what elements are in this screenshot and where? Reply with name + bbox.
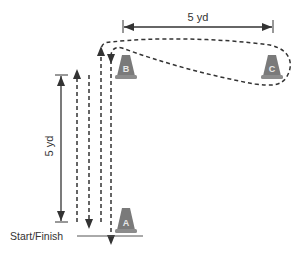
drill-diagram: 5 yd 5 yd Start/Finish B [0, 0, 301, 256]
arrow-down-icon [107, 54, 115, 64]
arrow-up-icon [97, 46, 105, 56]
vertical-dimension: 5 yd [43, 75, 68, 222]
arrow-right-icon [262, 23, 272, 31]
cone-a-label: A [123, 218, 130, 228]
horizontal-dimension: 5 yd [123, 11, 273, 33]
arrow-left-icon [124, 23, 134, 31]
running-path [77, 39, 290, 238]
arrow-down-icon [85, 219, 93, 229]
cone-b-icon: B [115, 55, 137, 79]
start-finish-label: Start/Finish [10, 230, 63, 242]
horizontal-distance-label: 5 yd [188, 11, 209, 23]
cone-b-label: B [123, 64, 130, 74]
arrow-up-icon [57, 76, 65, 86]
cone-c-icon: C [261, 55, 283, 79]
vertical-distance-label: 5 yd [43, 136, 55, 157]
cone-c-label: C [269, 64, 276, 74]
arrow-up-icon [73, 69, 81, 79]
cone-a-icon: A [115, 208, 137, 233]
arrow-down-icon [57, 211, 65, 221]
